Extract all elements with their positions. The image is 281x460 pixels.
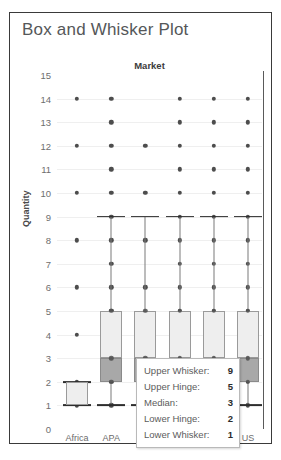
data-point-dot[interactable] xyxy=(177,144,181,148)
tooltip-row-label: Lower Whisker: xyxy=(144,427,209,443)
gridline xyxy=(57,264,262,265)
data-point-dot[interactable] xyxy=(177,96,181,100)
y-axis-tick-label: 4 xyxy=(46,329,51,340)
page-title: Box and Whisker Plot xyxy=(22,20,189,40)
tooltip-row-value: 3 xyxy=(223,395,233,411)
y-axis-tick-label: 11 xyxy=(41,164,51,175)
gridline xyxy=(57,146,262,147)
data-point-dot[interactable] xyxy=(246,191,250,195)
right-axis-line xyxy=(263,71,264,429)
box-upper-quartile[interactable] xyxy=(100,311,122,358)
y-axis-tick-label: 3 xyxy=(46,353,51,364)
gridline xyxy=(57,217,262,218)
tooltip-row: Upper Hinge:5 xyxy=(144,379,233,395)
hinge-marker-dot[interactable] xyxy=(246,380,250,384)
data-point-dot[interactable] xyxy=(246,120,250,124)
data-point-dot[interactable] xyxy=(75,332,79,336)
data-point-dot[interactable] xyxy=(143,191,147,195)
tooltip-row: Median:3 xyxy=(144,395,233,411)
tooltip-row-value: 5 xyxy=(223,379,233,395)
tooltip-row-label: Lower Hinge: xyxy=(144,411,200,427)
data-point-dot[interactable] xyxy=(212,120,216,124)
y-axis-tick-label: 15 xyxy=(40,70,51,81)
gridline xyxy=(57,335,262,336)
data-point-dot[interactable] xyxy=(212,96,216,100)
y-axis-tick-label: 12 xyxy=(40,140,51,151)
tooltip-row-label: Median: xyxy=(144,395,178,411)
chart-card: Box and Whisker Plot Market Quantity 151… xyxy=(9,12,272,444)
y-axis-tick-label: 6 xyxy=(46,282,51,293)
upper-whisker-cap xyxy=(131,216,159,218)
data-point-dot[interactable] xyxy=(75,238,79,242)
tooltip-row: Lower Hinge:2 xyxy=(144,411,233,427)
gridline xyxy=(57,287,262,288)
data-point-dot[interactable] xyxy=(75,144,79,148)
data-point-dot[interactable] xyxy=(212,144,216,148)
upper-whisker-cap xyxy=(97,216,125,218)
data-point-dot[interactable] xyxy=(109,96,113,100)
data-point-dot[interactable] xyxy=(109,144,113,148)
tooltip-row-value: 2 xyxy=(223,411,233,427)
box-upper-quartile[interactable] xyxy=(134,311,156,358)
y-axis-tick-label: 0 xyxy=(46,424,51,435)
x-axis-tick-label: US xyxy=(242,433,255,443)
tooltip-row: Upper Whisker:9 xyxy=(144,363,233,379)
y-axis-tick-label: 14 xyxy=(40,93,51,104)
gridline xyxy=(57,311,262,312)
data-point-dot[interactable] xyxy=(246,96,250,100)
x-axis-tick-label: APA xyxy=(103,433,120,443)
tooltip-row-value: 1 xyxy=(223,427,233,443)
data-point-dot[interactable] xyxy=(109,120,113,124)
screenshot-root: Box and Whisker Plot Market Quantity 151… xyxy=(0,0,281,460)
data-point-dot[interactable] xyxy=(177,191,181,195)
data-point-dot[interactable] xyxy=(212,191,216,195)
data-point-dot[interactable] xyxy=(75,285,79,289)
y-axis-tick-label: 8 xyxy=(46,235,51,246)
y-axis-label: Quantity xyxy=(21,190,31,227)
y-axis-tick-label: 10 xyxy=(40,188,51,199)
data-point-dot[interactable] xyxy=(143,144,147,148)
gridline xyxy=(57,99,262,100)
data-point-dot[interactable] xyxy=(212,167,216,171)
tooltip-row-value: 9 xyxy=(223,363,233,379)
tooltip-row: Lower Whisker:1 xyxy=(144,427,233,443)
y-axis-tick-label: 9 xyxy=(46,211,51,222)
boxplot-tooltip: Upper Whisker:9Upper Hinge:5Median:3Lowe… xyxy=(136,358,240,448)
hinge-marker-dot[interactable] xyxy=(109,380,113,384)
y-axis-tick-label: 13 xyxy=(40,117,51,128)
box-upper-quartile[interactable] xyxy=(203,311,225,358)
tooltip-row-label: Upper Hinge: xyxy=(144,379,200,395)
data-point-dot[interactable] xyxy=(75,96,79,100)
box-lower-quartile[interactable] xyxy=(237,358,259,382)
y-axis-tick-label: 7 xyxy=(46,258,51,269)
data-point-dot[interactable] xyxy=(109,167,113,171)
y-axis-tick-label: 2 xyxy=(46,376,51,387)
box-upper-quartile[interactable] xyxy=(237,311,259,358)
y-axis-tick-label: 5 xyxy=(46,306,51,317)
gridline xyxy=(57,240,262,241)
data-point-dot[interactable] xyxy=(246,144,250,148)
box-upper-quartile[interactable] xyxy=(169,311,191,358)
data-point-dot[interactable] xyxy=(177,167,181,171)
gridline xyxy=(57,169,262,170)
upper-whisker-cap xyxy=(234,216,262,218)
data-point-dot[interactable] xyxy=(177,120,181,124)
box-lower-quartile[interactable] xyxy=(100,358,122,382)
data-point-dot[interactable] xyxy=(109,191,113,195)
data-point-dot[interactable] xyxy=(246,167,250,171)
y-axis-tick-label: 1 xyxy=(46,400,51,411)
tooltip-row-label: Upper Whisker: xyxy=(144,363,209,379)
gridline xyxy=(57,193,262,194)
box-africa[interactable] xyxy=(66,382,88,406)
upper-whisker-cap xyxy=(200,216,228,218)
upper-whisker-cap xyxy=(166,216,194,218)
gridline xyxy=(57,122,262,123)
x-axis-tick-label: Africa xyxy=(66,433,89,443)
data-point-dot[interactable] xyxy=(75,191,79,195)
lower-whisker-cap xyxy=(97,404,125,406)
